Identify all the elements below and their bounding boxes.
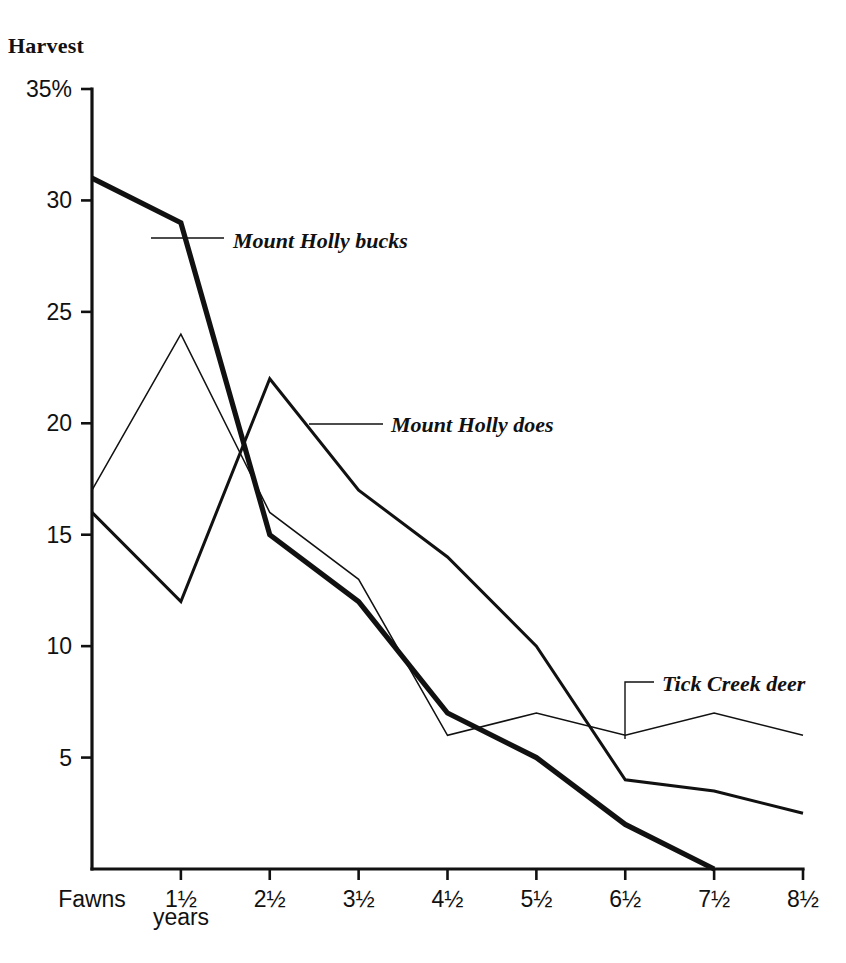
- axes-group: [92, 89, 803, 869]
- x-tick-marks: [181, 869, 803, 880]
- x-tick-label: 2½: [254, 886, 286, 912]
- y-tick-label: 10: [46, 633, 72, 659]
- y-tick-label: 30: [46, 187, 72, 213]
- x-tick-label: 3½: [343, 886, 375, 912]
- y-tick-label: 25: [46, 299, 72, 325]
- y-tick-label: 35%: [26, 76, 72, 102]
- y-tick-label: 15: [46, 522, 72, 548]
- chart-root: Harvest 35%30252015105 Fawns1½2½3½4½5½6½…: [0, 0, 846, 963]
- x-tick-label: 8½: [787, 886, 819, 912]
- series-annotation-label: Tick Creek deer: [662, 671, 806, 696]
- series-annotation-label: Mount Holly bucks: [232, 228, 408, 253]
- x-tick-label: Fawns: [58, 886, 126, 912]
- y-tick-label: 20: [46, 410, 72, 436]
- x-tick-label: 6½: [609, 886, 641, 912]
- line-chart-plot: 35%30252015105 Fawns1½2½3½4½5½6½7½8½ yea…: [0, 0, 846, 963]
- y-tick-label: 5: [59, 745, 72, 771]
- x-tick-label: 5½: [520, 886, 552, 912]
- data-series-group: [92, 178, 803, 869]
- x-tick-label: 7½: [698, 886, 730, 912]
- series-annotation-label: Mount Holly does: [390, 412, 554, 437]
- series-line: [92, 379, 803, 814]
- x-tick-label: 4½: [432, 886, 464, 912]
- y-axis-tick-labels: 35%30252015105: [26, 76, 72, 771]
- series-annotations-group: Mount Holly bucksMount Holly doesTick Cr…: [151, 228, 806, 739]
- y-tick-marks: [81, 89, 92, 758]
- x-axis-unit-label: years: [153, 904, 209, 930]
- annotation-leader-line: [625, 682, 654, 739]
